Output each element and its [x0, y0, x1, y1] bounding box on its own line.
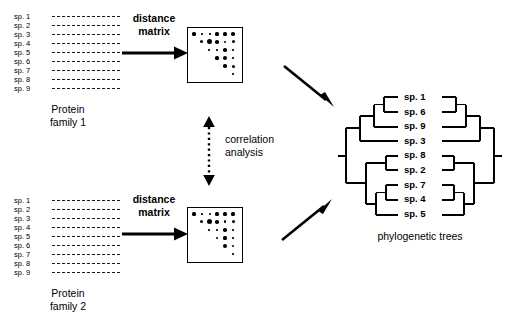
sequence-dashes-icon: [52, 25, 120, 26]
arrow-diagonal-down-right-icon: [282, 64, 338, 110]
matrix-dot: [215, 212, 218, 215]
matrix-dot: [192, 32, 195, 35]
species-label: sp. 7: [14, 66, 47, 75]
matrix-dot: [209, 213, 211, 215]
matrix-dot: [232, 253, 234, 255]
alignment-row: sp. 2: [14, 205, 120, 214]
matrix-dot: [207, 39, 212, 44]
alignment-row: sp. 8: [14, 75, 120, 84]
sequence-dashes-icon: [52, 52, 120, 53]
species-label: sp. 9: [14, 268, 47, 277]
alignment-row: sp. 4: [14, 39, 120, 48]
matrix-dot: [232, 73, 234, 75]
matrix-dot: [192, 212, 195, 215]
sequence-dashes-icon: [52, 263, 120, 264]
matrix-dot: [232, 245, 234, 247]
sequence-dashes-icon: [52, 227, 120, 228]
matrix-dot: [223, 56, 227, 60]
distance-matrix-top: [187, 27, 243, 83]
matrix-dot: [207, 219, 212, 224]
matrix-dot: [201, 33, 203, 35]
matrix-dot: [216, 49, 218, 51]
sequence-dashes-icon: [52, 43, 120, 44]
alignment-row: sp. 8: [14, 259, 120, 268]
alignment-row: sp. 9: [14, 268, 120, 277]
label-distance-matrix-top: distance matrix: [116, 12, 192, 37]
species-label: sp. 8: [14, 75, 47, 84]
matrix-dot: [223, 236, 226, 239]
alignment-row: sp. 6: [14, 57, 120, 66]
phylogenetic-tree-right: [442, 90, 504, 222]
matrix-dot: [224, 220, 227, 223]
species-label: sp. 7: [14, 250, 47, 259]
sequence-dashes-icon: [52, 34, 120, 35]
alignment-row: sp. 2: [14, 21, 120, 30]
alignment-row: sp. 5: [14, 232, 120, 241]
matrix-dot: [200, 40, 203, 43]
sequence-dashes-icon: [52, 254, 120, 255]
matrix-dot: [224, 41, 226, 43]
label-distance-matrix-bottom: distance matrix: [116, 193, 192, 218]
matrix-dot: [215, 56, 218, 59]
alignment-row: sp. 4: [14, 223, 120, 232]
alignment-row: sp. 5: [14, 48, 120, 57]
arrow-right-top-icon: [120, 44, 190, 62]
sequence-dashes-icon: [52, 236, 120, 237]
phylogenetic-tree-left: [336, 90, 398, 222]
caption-protein-family-2: Protein family 2: [8, 287, 128, 312]
matrix-dot: [208, 229, 209, 230]
caption-protein-family-1: Protein family 1: [8, 103, 128, 128]
matrix-dot: [223, 212, 226, 215]
matrix-dot: [215, 40, 219, 44]
matrix-dot: [200, 220, 203, 223]
alignment-row: sp. 3: [14, 214, 120, 223]
sequence-dashes-icon: [52, 218, 120, 219]
species-label: sp. 6: [14, 241, 47, 250]
sequence-dashes-icon: [52, 272, 120, 273]
sequence-dashes-icon: [52, 245, 120, 246]
matrix-dot: [232, 237, 234, 239]
species-label: sp. 1: [14, 12, 47, 21]
alignment-row: sp. 9: [14, 84, 120, 93]
species-label: sp. 8: [14, 259, 47, 268]
species-label: sp. 9: [14, 84, 47, 93]
alignment-row: sp. 7: [14, 66, 120, 75]
species-label: sp. 2: [14, 21, 47, 30]
species-label: sp. 3: [14, 214, 47, 223]
matrix-dot: [216, 237, 218, 239]
alignment-row: sp. 1: [14, 196, 120, 205]
matrix-dot: [232, 220, 235, 223]
sequence-dashes-icon: [52, 16, 120, 17]
matrix-dot: [216, 229, 218, 231]
matrix-dot: [223, 228, 226, 231]
matrix-dot: [223, 32, 226, 35]
matrix-dot: [232, 57, 234, 59]
label-correlation-analysis: correlation analysis: [225, 133, 315, 159]
sequence-dashes-icon: [52, 70, 120, 71]
distance-matrix-bottom: [187, 207, 243, 263]
sequence-dashes-icon: [52, 79, 120, 80]
species-label: sp. 2: [14, 205, 47, 214]
sequence-dashes-icon: [52, 88, 120, 89]
matrix-dot: [215, 220, 219, 224]
arrow-diagonal-up-right-icon: [280, 196, 336, 242]
figure-canvas: sp. 1 sp. 2 sp. 3 sp. 4 sp. 5 sp. 6 sp. …: [0, 0, 512, 320]
matrix-dot: [231, 212, 234, 215]
matrix-dot: [223, 64, 226, 67]
sequence-dashes-icon: [52, 200, 120, 201]
matrix-dot: [215, 32, 218, 35]
matrix-dot: [232, 49, 234, 51]
matrix-dot: [232, 65, 235, 68]
species-label: sp. 3: [14, 30, 47, 39]
matrix-dot: [208, 49, 209, 50]
species-label: sp. 6: [14, 57, 47, 66]
matrix-dot: [232, 40, 235, 43]
matrix-dot: [232, 229, 234, 231]
species-label: sp. 1: [14, 196, 47, 205]
alignment-family-1: sp. 1 sp. 2 sp. 3 sp. 4 sp. 5 sp. 6 sp. …: [14, 12, 120, 93]
alignment-row: sp. 6: [14, 241, 120, 250]
sequence-dashes-icon: [52, 209, 120, 210]
alignment-family-2: sp. 1 sp. 2 sp. 3 sp. 4 sp. 5 sp. 6 sp. …: [14, 196, 120, 277]
caption-phylogenetic-trees: phylogenetic trees: [340, 230, 500, 243]
alignment-row: sp. 3: [14, 30, 120, 39]
